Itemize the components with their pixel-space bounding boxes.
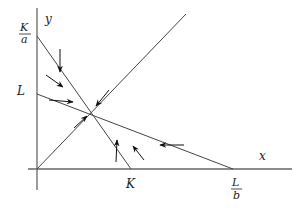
phase-plane-diagram: y x K a L K L b [0,0,306,209]
arrow-icon [133,146,144,160]
y-axis-label: y [44,12,52,26]
arrow-icon [49,100,73,102]
k-over-a-denominator: a [21,33,28,46]
l-over-b-denominator: b [233,189,240,202]
k-intercept-label: K [125,177,136,191]
arrow-icon [116,140,117,162]
arrow-icon [46,75,63,87]
x-axis-label: x [259,149,266,163]
l-over-b-numerator: L [231,176,239,189]
arrow-icon [96,90,109,106]
diagonal-line [37,14,186,169]
l-intercept-label: L [16,84,25,98]
arrow-icon [74,116,87,128]
nullcline-2-line [37,94,233,169]
